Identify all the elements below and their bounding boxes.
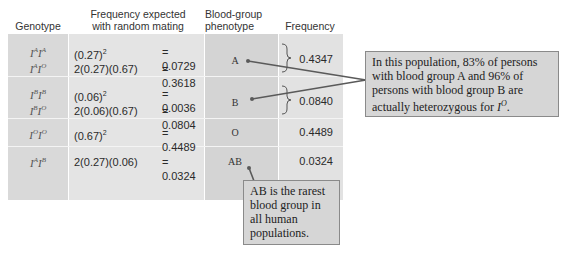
dot-b-icon — [250, 97, 254, 101]
dot-a-icon — [246, 59, 250, 63]
callout-heterozygous-text: In this population, 83% of persons with … — [372, 55, 537, 114]
brace-b-icon — [282, 86, 291, 114]
callout-rarest-text: AB is the rarest blood group in all huma… — [250, 184, 325, 240]
callout-rarest-group: AB is the rarest blood group in all huma… — [243, 180, 340, 245]
leader-line-b — [252, 80, 366, 99]
leader-line-a — [248, 61, 366, 80]
callout-heterozygous-period: . — [507, 100, 510, 114]
dot-ab-icon — [247, 166, 251, 170]
callout-heterozygous: In this population, 83% of persons with … — [365, 51, 559, 117]
